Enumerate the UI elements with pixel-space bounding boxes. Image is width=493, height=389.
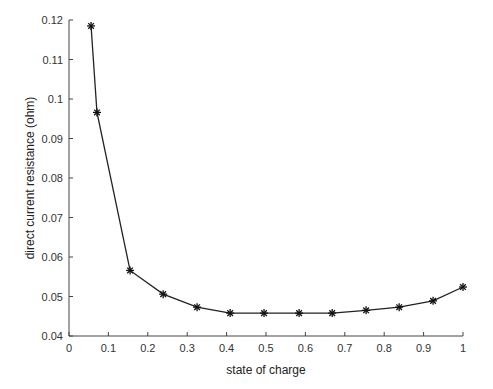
x-tick-label: 0.4 [219,342,234,354]
asterisk-marker [159,290,167,298]
y-tick-label: 0.07 [42,212,63,224]
asterisk-marker [226,309,234,317]
data-line [91,26,463,313]
asterisk-marker [193,303,201,311]
asterisk-marker [328,309,336,317]
asterisk-marker [93,108,101,116]
plot-area [87,22,467,317]
chart: 00.10.20.30.40.50.60.70.80.910.040.050.0… [0,0,493,389]
y-tick-label: 0.12 [42,14,63,26]
x-tick-label: 0.5 [258,342,273,354]
x-tick-label: 0.7 [337,342,352,354]
axes: 00.10.20.30.40.50.60.70.80.910.040.050.0… [42,14,466,354]
y-tick-label: 0.08 [42,172,63,184]
asterisk-marker [295,309,303,317]
y-tick-label: 0.04 [42,330,63,342]
y-tick-label: 0.05 [42,291,63,303]
asterisk-marker [126,266,134,274]
x-tick-label: 0 [66,342,72,354]
asterisk-marker [395,303,403,311]
x-tick-label: 0.6 [298,342,313,354]
x-tick-label: 0.8 [377,342,392,354]
x-tick-label: 0.2 [140,342,155,354]
y-tick-label: 0.09 [42,133,63,145]
asterisk-marker [429,297,437,305]
y-tick-label: 0.1 [48,93,63,105]
asterisk-marker [87,22,95,30]
x-axis-label: state of charge [226,363,306,377]
asterisk-marker [459,283,467,291]
x-tick-label: 0.9 [416,342,431,354]
x-tick-label: 1 [460,342,466,354]
asterisk-marker [260,309,268,317]
y-axis-label: direct current resistance (ohm) [23,97,37,260]
y-tick-label: 0.06 [42,251,63,263]
y-tick-label: 0.11 [42,54,63,66]
asterisk-marker [362,306,370,314]
x-tick-label: 0.3 [180,342,195,354]
x-tick-label: 0.1 [101,342,116,354]
